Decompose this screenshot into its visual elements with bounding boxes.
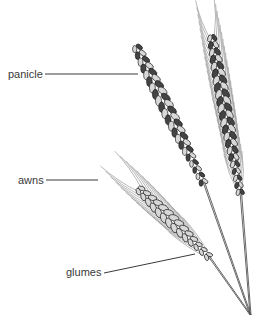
grain [196, 173, 200, 180]
grain [186, 154, 190, 161]
stem [210, 256, 252, 315]
stem [205, 182, 252, 315]
label-glumes: glumes [66, 266, 101, 278]
label-awns: awns [18, 174, 44, 186]
grain [230, 160, 236, 168]
stem [203, 182, 250, 315]
grain [199, 180, 203, 187]
wheat-illustration [0, 0, 271, 323]
grain [232, 168, 237, 175]
stem [242, 192, 252, 315]
awn [115, 151, 142, 188]
grain [133, 45, 137, 52]
grain [234, 182, 239, 189]
awn [214, 0, 216, 38]
grain [207, 34, 213, 42]
stems [203, 182, 251, 315]
awn [101, 166, 139, 192]
label-panicle: panicle [8, 68, 43, 80]
grain [233, 175, 238, 182]
grain [182, 147, 187, 155]
leader-line-glumes [104, 254, 195, 273]
stem [208, 256, 250, 315]
grain [190, 160, 194, 167]
grain [193, 167, 197, 174]
